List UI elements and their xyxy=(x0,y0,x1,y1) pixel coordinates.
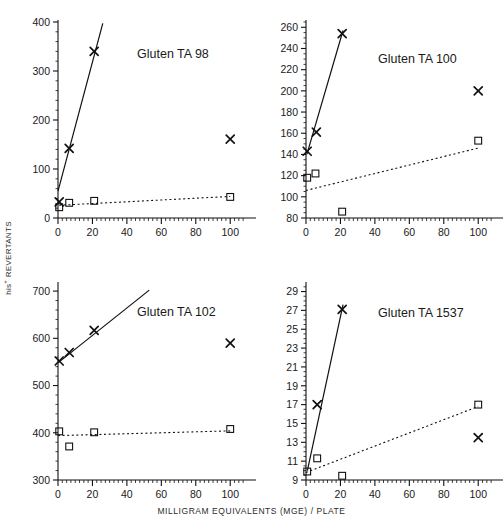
y-tick-label: 500 xyxy=(32,379,50,391)
panel-title-2: Gluten TA 102 xyxy=(137,305,216,319)
panel-title-0: Gluten TA 98 xyxy=(137,47,209,61)
regression-line xyxy=(58,290,149,363)
x-tick-label: 40 xyxy=(121,488,133,500)
y-tick-label: 27 xyxy=(286,304,298,316)
y-tick-label: 400 xyxy=(32,16,50,28)
data-point-cross xyxy=(313,401,321,409)
y-axis-title-prefix: his xyxy=(4,284,13,295)
data-point-square xyxy=(66,443,73,450)
x-tick-label: 80 xyxy=(438,226,450,238)
y-axis-title: his+ REVERTANTS xyxy=(2,198,13,318)
x-tick-label: 80 xyxy=(190,488,202,500)
y-tick-label: 25 xyxy=(286,323,298,335)
panel-gluten-ta-102: 300400500600700020406080100 xyxy=(14,270,258,518)
x-tick-label: 0 xyxy=(303,226,309,238)
y-tick-label: 29 xyxy=(286,285,298,297)
data-point-cross xyxy=(226,135,234,143)
y-tick-label: 13 xyxy=(286,436,298,448)
data-point-cross xyxy=(55,198,63,206)
plot-2: 300400500600700020406080100 xyxy=(14,270,258,518)
series-square xyxy=(56,194,234,211)
x-axis-ticks: 020406080100 xyxy=(303,480,491,500)
data-point-cross xyxy=(474,434,482,442)
x-tick-label: 40 xyxy=(121,226,133,238)
y-axis-title-main: REVERTANTS xyxy=(4,221,13,277)
regression-line xyxy=(306,148,478,190)
x-tick-label: 0 xyxy=(303,488,309,500)
data-point-cross xyxy=(55,357,63,365)
plot-0: 0100200300400020406080100 xyxy=(14,8,258,256)
y-axis-ticks: 300400500600700 xyxy=(32,285,58,486)
y-tick-label: 21 xyxy=(286,361,298,373)
y-tick-label: 100 xyxy=(32,163,50,175)
y-axis-ticks: 80100120140160180200220240260 xyxy=(280,21,306,224)
data-point-cross xyxy=(226,339,234,347)
y-tick-label: 19 xyxy=(286,380,298,392)
series-square xyxy=(304,401,482,479)
x-tick-label: 40 xyxy=(369,488,381,500)
y-axis-ticks: 0100200300400 xyxy=(32,16,58,224)
x-axis-ticks: 020406080100 xyxy=(55,218,243,238)
data-point-square xyxy=(475,137,482,144)
x-tick-label: 0 xyxy=(55,488,61,500)
data-point-square xyxy=(314,455,321,462)
series-square xyxy=(56,426,234,450)
y-tick-label: 160 xyxy=(280,127,298,139)
x-tick-label: 20 xyxy=(335,226,347,238)
y-tick-label: 700 xyxy=(32,285,50,297)
figure-root: his+ REVERTANTS MILLIGRAM EQUIVALENTS (M… xyxy=(0,0,503,528)
x-tick-label: 60 xyxy=(155,488,167,500)
y-tick-label: 180 xyxy=(280,106,298,118)
data-point-square xyxy=(56,428,63,435)
x-tick-label: 60 xyxy=(155,226,167,238)
y-tick-label: 260 xyxy=(280,21,298,33)
y-tick-label: 400 xyxy=(32,427,50,439)
y-tick-label: 600 xyxy=(32,332,50,344)
panel-title-1: Gluten TA 100 xyxy=(378,52,457,66)
y-tick-label: 200 xyxy=(32,114,50,126)
data-point-square xyxy=(312,170,319,177)
data-point-square xyxy=(227,426,234,433)
regression-line xyxy=(59,196,230,205)
x-tick-label: 0 xyxy=(55,226,61,238)
y-tick-label: 80 xyxy=(286,212,298,224)
regression-line xyxy=(306,407,478,473)
x-tick-label: 80 xyxy=(190,226,202,238)
y-tick-label: 9 xyxy=(292,474,298,486)
y-tick-label: 23 xyxy=(286,342,298,354)
x-tick-label: 20 xyxy=(87,488,99,500)
panel-gluten-ta-100: 8010012014016018020022024026002040608010… xyxy=(262,8,500,256)
axes xyxy=(306,20,503,218)
data-point-cross xyxy=(90,326,98,334)
y-tick-label: 220 xyxy=(280,63,298,75)
regression-line xyxy=(307,305,343,471)
x-tick-label: 40 xyxy=(369,226,381,238)
y-tick-label: 300 xyxy=(32,65,50,77)
data-point-cross xyxy=(474,87,482,95)
x-tick-label: 60 xyxy=(403,226,415,238)
x-tick-label: 100 xyxy=(221,488,239,500)
y-tick-label: 300 xyxy=(32,474,50,486)
x-tick-label: 80 xyxy=(438,488,450,500)
data-point-square xyxy=(339,472,346,479)
y-tick-label: 11 xyxy=(287,455,298,467)
x-axis-ticks: 020406080100 xyxy=(303,218,491,238)
x-tick-label: 100 xyxy=(469,488,487,500)
y-tick-label: 240 xyxy=(280,42,298,54)
series-square xyxy=(304,137,482,215)
series-cross xyxy=(55,290,234,365)
y-axis-title-superscript: + xyxy=(2,280,8,284)
y-tick-label: 0 xyxy=(44,212,50,224)
plot-1: 8010012014016018020022024026002040608010… xyxy=(262,8,500,256)
y-tick-label: 15 xyxy=(286,417,298,429)
y-tick-label: 140 xyxy=(280,148,298,160)
y-tick-label: 100 xyxy=(280,191,298,203)
data-point-cross xyxy=(338,30,346,38)
data-point-square xyxy=(339,208,346,215)
regression-line xyxy=(58,431,230,436)
series-cross xyxy=(303,30,482,156)
y-tick-label: 120 xyxy=(280,169,298,181)
y-axis-ticks: 911131517192123252729 xyxy=(286,285,306,485)
y-tick-label: 200 xyxy=(280,85,298,97)
x-axis-ticks: 020406080100 xyxy=(55,480,243,500)
